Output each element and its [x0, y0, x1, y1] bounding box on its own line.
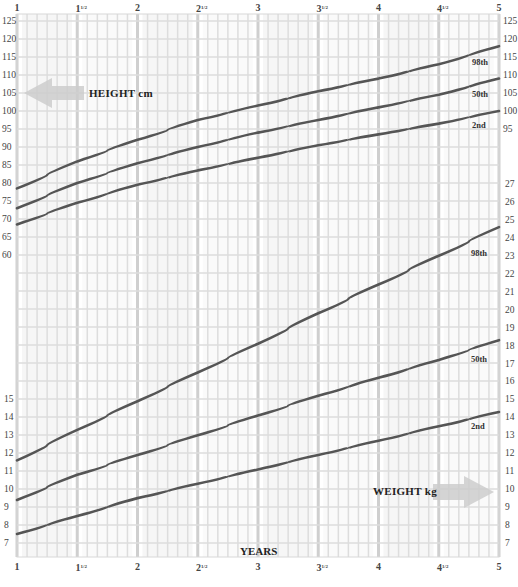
weight-tick-right: 7: [505, 538, 510, 548]
height-tick-right: 105: [503, 88, 517, 98]
height-tick-left: 120: [2, 34, 16, 44]
weight-tick-right: 13: [505, 430, 515, 440]
height-tick-left: 105: [2, 88, 16, 98]
x-tick-bottom: 2: [135, 562, 140, 572]
x-tick-top: 1: [15, 3, 20, 13]
weight-tick-right: 14: [505, 412, 515, 422]
x-axis-title: YEARS: [240, 545, 277, 557]
weight-tick-left: 7: [4, 538, 18, 548]
weight-tick-right: 24: [505, 233, 515, 243]
weight-tick-right: 19: [505, 323, 515, 333]
x-tick-top: 2: [135, 3, 140, 13]
weight-2nd-label: 2nd: [471, 421, 485, 431]
height-50th-label: 50th: [472, 89, 488, 99]
weight-tick-right: 11: [505, 466, 514, 476]
x-tick-top: 11/2: [76, 3, 87, 14]
height-2nd-label: 2nd: [472, 120, 486, 130]
x-tick-bottom: 11/2: [76, 562, 87, 573]
weight-tick-right: 8: [505, 520, 510, 530]
height-tick-right: 100: [503, 106, 517, 116]
x-tick-top: 3: [256, 3, 261, 13]
weight-50th-label: 50th: [471, 354, 487, 364]
height-tick-right: 120: [503, 34, 517, 44]
height-tick-right: 115: [503, 52, 517, 62]
height-tick-right: 110: [503, 70, 517, 80]
weight-tick-left: 13: [4, 430, 18, 440]
x-tick-bottom: 31/2: [317, 562, 328, 573]
x-tick-bottom: 3: [256, 562, 261, 572]
x-tick-bottom: 41/2: [437, 562, 448, 573]
growth-chart: HEIGHT cm WEIGHT kg YEARS 98th 50th 2nd …: [0, 0, 518, 587]
x-tick-top: 31/2: [317, 3, 328, 14]
height-tick-left: 100: [2, 106, 16, 116]
weight-tick-left: 12: [4, 448, 18, 458]
height-tick-left: 90: [2, 142, 16, 152]
weight-98th-label: 98th: [471, 248, 487, 258]
height-tick-left: 125: [2, 16, 16, 26]
weight-tick-right: 26: [505, 197, 515, 207]
weight-tick-right: 15: [505, 394, 515, 404]
weight-tick-right: 17: [505, 359, 515, 369]
x-tick-top: 5: [497, 3, 502, 13]
weight-tick-left: 14: [4, 412, 18, 422]
weight-tick-right: 10: [505, 484, 515, 494]
weight-tick-left: 11: [4, 466, 18, 476]
weight-tick-right: 12: [505, 448, 515, 458]
height-tick-right: 125: [503, 16, 517, 26]
weight-tick-right: 18: [505, 341, 515, 351]
weight-tick-right: 23: [505, 251, 515, 261]
height-tick-left: 80: [2, 178, 16, 188]
weight-tick-right: 16: [505, 376, 515, 386]
weight-tick-left: 9: [4, 502, 18, 512]
x-tick-bottom: 4: [376, 562, 381, 572]
x-tick-top: 41/2: [437, 3, 448, 14]
height-tick-left: 70: [2, 214, 16, 224]
x-tick-bottom: 21/2: [196, 562, 207, 573]
height-tick-right: 95: [503, 124, 513, 134]
plot-area: [0, 0, 518, 587]
height-tick-left: 65: [2, 232, 16, 242]
weight-tick-right: 25: [505, 215, 515, 225]
height-tick-left: 110: [2, 70, 16, 80]
height-tick-left: 75: [2, 196, 16, 206]
weight-axis-label: WEIGHT kg: [373, 485, 437, 497]
height-98th-label: 98th: [472, 57, 488, 67]
height-tick-left: 115: [2, 52, 16, 62]
weight-tick-left: 8: [4, 520, 18, 530]
weight-tick-left: 15: [4, 394, 18, 404]
weight-tick-right: 20: [505, 305, 515, 315]
weight-tick-right: 22: [505, 269, 515, 279]
x-tick-top: 21/2: [196, 3, 207, 14]
weight-tick-right: 9: [505, 502, 510, 512]
x-tick-bottom: 1: [15, 562, 20, 572]
x-tick-top: 4: [376, 3, 381, 13]
weight-tick-left: 10: [4, 484, 18, 494]
weight-tick-right: 21: [505, 287, 515, 297]
weight-tick-right: 27: [505, 179, 515, 189]
height-tick-left: 95: [2, 124, 16, 134]
x-tick-bottom: 5: [497, 562, 502, 572]
height-tick-left: 85: [2, 160, 16, 170]
height-axis-label: HEIGHT cm: [89, 87, 153, 99]
height-tick-left: 60: [2, 250, 16, 260]
